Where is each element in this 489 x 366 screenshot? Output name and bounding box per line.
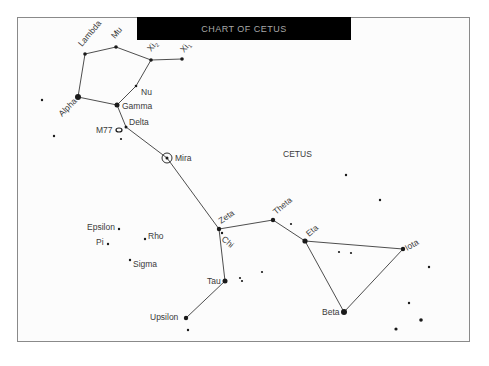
star-tau	[223, 279, 228, 284]
star-zeta	[217, 227, 221, 231]
field-star	[408, 302, 410, 304]
star-map: LambdaMuXi2Xi1NuAlphaGammaDeltaMiraZetaC…	[0, 0, 489, 366]
label-m77: M77	[96, 125, 113, 135]
line-xi2-nu	[136, 60, 151, 86]
field-star	[239, 277, 241, 279]
field-star	[261, 271, 263, 273]
field-star	[345, 174, 347, 176]
star-mira	[166, 157, 169, 160]
line-alpha-lambda	[78, 54, 85, 97]
label-beta: Beta	[322, 307, 340, 317]
star-upsilon	[184, 316, 188, 320]
line-lambda-mu	[85, 47, 116, 54]
label-tau: Tau	[207, 276, 221, 286]
star-theta	[271, 218, 275, 222]
label-upsilon: Upsilon	[150, 312, 179, 322]
label-lambda: Lambda	[76, 18, 104, 48]
field-star	[394, 327, 397, 330]
line-xi2-xi1	[151, 59, 182, 60]
field-star	[428, 266, 430, 268]
line-tau-upsilon	[186, 281, 225, 318]
line-alpha-gamma	[78, 97, 117, 105]
galaxy-m77-icon	[116, 128, 122, 132]
star-xi1	[180, 57, 184, 61]
field-star	[120, 138, 122, 140]
field-star	[419, 318, 423, 322]
label-xi2: Xi2	[145, 39, 160, 54]
label-zeta: Zeta	[216, 208, 236, 226]
star-alpha	[75, 94, 81, 100]
line-beta-iota	[344, 249, 403, 312]
line-eta-iota	[305, 241, 403, 249]
star-delta	[125, 126, 128, 129]
field-star	[338, 251, 340, 253]
line-theta-eta	[273, 220, 305, 241]
line-delta-mira	[126, 127, 167, 158]
star-rho	[144, 238, 146, 240]
label-gamma: Gamma	[122, 101, 153, 111]
star-labels: LambdaMuXi2Xi1NuAlphaGammaDeltaMiraZetaC…	[56, 18, 420, 322]
label-sigma: Sigma	[133, 259, 157, 269]
line-mira-zeta	[167, 158, 219, 229]
field-star	[379, 199, 381, 201]
field-star	[53, 135, 55, 137]
star-gamma	[115, 103, 120, 108]
constellation-label: CETUS	[283, 149, 312, 159]
field-star	[350, 252, 352, 254]
field-star	[241, 280, 243, 282]
line-mu-xi2	[116, 47, 151, 60]
field-star	[290, 223, 292, 225]
label-epsilon: Epsilon	[87, 222, 115, 232]
label-eta: Eta	[304, 222, 320, 238]
label-mira: Mira	[175, 153, 192, 163]
star-lambda	[83, 52, 87, 56]
star-mu	[114, 45, 118, 49]
star-xi2	[149, 58, 153, 62]
star-epsilon	[118, 228, 120, 230]
label-pi: Pi	[96, 237, 104, 247]
label-chi: Chi	[220, 234, 236, 250]
field-star	[187, 329, 189, 331]
label-delta: Delta	[129, 117, 149, 127]
star-beta	[341, 309, 347, 315]
label-xi1: Xi1	[178, 40, 193, 55]
label-rho: Rho	[148, 231, 164, 241]
star-chi	[221, 232, 223, 234]
label-mu: Mu	[109, 25, 124, 41]
star-pi	[107, 243, 109, 245]
field-star	[41, 99, 43, 101]
label-nu: Nu	[141, 87, 152, 97]
star-eta	[302, 238, 307, 243]
label-alpha: Alpha	[56, 96, 79, 119]
label-iota: Iota	[403, 237, 421, 253]
star-sigma	[129, 259, 131, 261]
star-nu	[135, 85, 138, 88]
label-theta: Theta	[271, 195, 294, 217]
